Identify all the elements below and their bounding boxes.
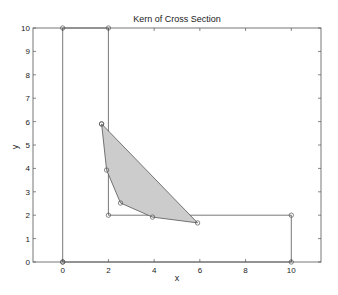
kern-polygon [99,122,199,225]
plot-area [61,26,294,264]
y-tick-label: 9 [26,47,31,56]
y-axis-ticks: 012345678910 [21,24,321,267]
y-tick-label: 1 [26,235,31,244]
x-tick-label: 2 [106,266,111,275]
y-tick-label: 5 [26,141,31,150]
y-tick-label: 2 [26,211,31,220]
chart-title: Kern of Cross Section [133,14,221,24]
chart-figure: Kern of Cross Section 0246810 0123456789… [0,0,338,295]
x-tick-label: 8 [243,266,248,275]
x-tick-label: 4 [152,266,157,275]
x-axis-label: x [175,273,180,283]
y-tick-label: 6 [26,118,31,127]
x-tick-label: 10 [287,266,296,275]
y-tick-label: 4 [26,164,31,173]
y-tick-label: 3 [26,188,31,197]
x-axis-ticks: 0246810 [60,28,296,275]
cross-section-outline [61,26,294,264]
axes-box [33,28,321,262]
x-tick-label: 0 [60,266,65,275]
y-tick-label: 7 [26,94,31,103]
y-tick-label: 0 [26,258,31,267]
y-tick-label: 8 [26,71,31,80]
y-tick-label: 10 [21,24,30,33]
y-axis-label: y [10,144,20,149]
x-tick-label: 6 [198,266,203,275]
